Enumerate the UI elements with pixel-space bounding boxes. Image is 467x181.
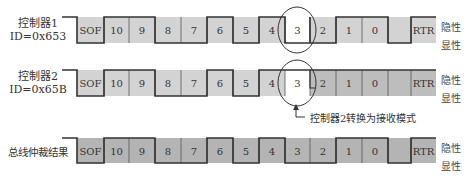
cell-label: 0 — [372, 146, 378, 157]
waveform-row-2: SOF109876543210RTR — [62, 70, 436, 96]
row3-recessive-label: 隐性 — [441, 140, 461, 155]
cell-label: 2 — [320, 146, 326, 157]
cell-label: 0 — [372, 25, 378, 36]
row1-recessive-label: 隐性 — [441, 19, 461, 34]
cell-label: 5 — [243, 78, 249, 89]
row3-dominant-label: 显性 — [441, 158, 461, 173]
cell-label: 4 — [269, 146, 275, 157]
row2-label-name: 控制器2 — [8, 70, 68, 83]
cell-label: 8 — [165, 78, 171, 89]
waveform-row-1: SOF109876543210RTR — [62, 17, 436, 43]
cell-label: 3 — [294, 78, 300, 89]
cell-label: SOF — [80, 146, 102, 157]
row1-label-id: ID=0x653 — [8, 30, 68, 43]
cell-label: 10 — [110, 25, 123, 36]
cell-label: 8 — [165, 25, 171, 36]
cell-label: 2 — [320, 78, 326, 89]
cell-label: 3 — [294, 146, 300, 157]
cell-label: 2 — [320, 25, 326, 36]
cell-label: 10 — [110, 146, 123, 157]
row3-label: 总线仲裁结果 — [2, 146, 74, 159]
row2-label-id: ID=0x65B — [8, 83, 68, 96]
cell-label: 6 — [217, 25, 223, 36]
cell-label: 6 — [217, 78, 223, 89]
row2-label: 控制器2 ID=0x65B — [8, 70, 68, 96]
cell-label: SOF — [80, 78, 102, 89]
cell-label: 1 — [346, 25, 352, 36]
cell-label: 1 — [346, 78, 352, 89]
row1-dominant-label: 显性 — [441, 37, 461, 52]
cell-label: 5 — [243, 146, 249, 157]
cell-label: 8 — [165, 146, 171, 157]
cell-label: 9 — [139, 25, 145, 36]
cell-label: RTR — [413, 146, 435, 157]
cell-label: 4 — [269, 78, 275, 89]
row1-label-name: 控制器1 — [8, 17, 68, 30]
cell-label: 1 — [346, 146, 352, 157]
cell-label: 4 — [269, 25, 275, 36]
row2-dominant-label: 显性 — [441, 90, 461, 105]
cell-label: 0 — [372, 78, 378, 89]
cell-label: 6 — [217, 146, 223, 157]
waveform-row-3: SOF109876543210RTR — [62, 138, 436, 163]
cell-label: 3 — [294, 25, 300, 36]
cell-label: 7 — [191, 25, 197, 36]
cell-label: 7 — [191, 78, 197, 89]
cell-label: RTR — [413, 78, 435, 89]
annotation-text: 控制器2转换为接收模式 — [310, 110, 416, 125]
row2-recessive-label: 隐性 — [441, 72, 461, 87]
cell-label: SOF — [80, 25, 102, 36]
arrowhead-icon — [293, 104, 299, 110]
cell-label: 7 — [191, 146, 197, 157]
cell-label: 5 — [243, 25, 249, 36]
cell-label: 9 — [139, 146, 145, 157]
cell-label: 10 — [110, 78, 123, 89]
cell-label: 9 — [139, 78, 145, 89]
row1-label: 控制器1 ID=0x653 — [8, 17, 68, 43]
cell-label: RTR — [413, 25, 435, 36]
